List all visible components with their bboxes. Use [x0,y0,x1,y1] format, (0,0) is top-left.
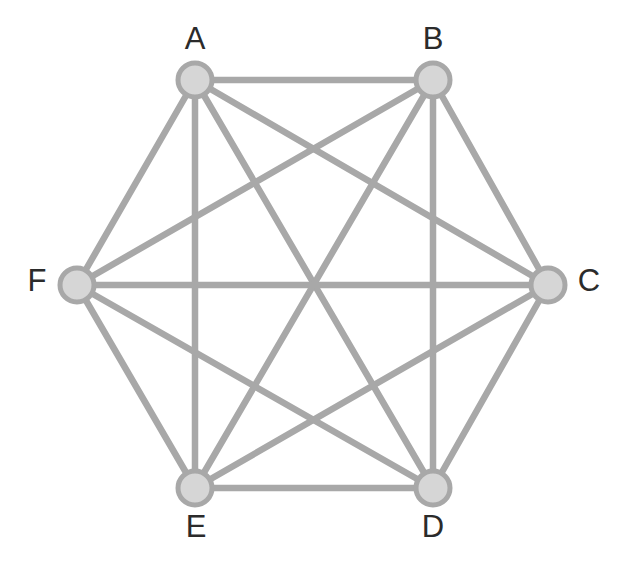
graph-node-e[interactable] [178,471,212,505]
graph-node-d[interactable] [416,471,450,505]
graph-edge-b-f [77,80,433,285]
graph-canvas: ABCDEF [0,0,630,567]
node-label-a: A [185,21,206,56]
graph-diagram: ABCDEF [0,0,630,567]
node-label-f: F [28,263,47,298]
graph-edge-c-e [195,285,548,488]
edges-group [77,80,548,488]
node-label-b: B [423,21,444,56]
graph-node-f[interactable] [60,268,94,302]
node-label-d: D [422,509,444,544]
node-label-c: C [578,263,600,298]
node-label-e: E [186,509,207,544]
graph-node-b[interactable] [416,63,450,97]
graph-node-c[interactable] [531,268,565,302]
graph-node-a[interactable] [178,63,212,97]
graph-edge-d-f [77,285,433,488]
